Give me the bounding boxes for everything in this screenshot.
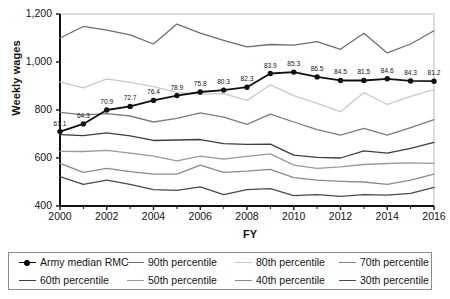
svg-text:86.5: 86.5 [311,65,324,72]
legend-row-2: 60th percentile50th percentile40th perce… [9,271,431,290]
svg-text:70.9: 70.9 [100,98,113,105]
legend-swatch-icon [19,280,36,281]
legend-item-label: Army median RMC [40,257,129,268]
svg-text:83.9: 83.9 [264,62,277,69]
legend-swatch-icon [339,262,356,263]
legend-item-70th-percentile[interactable]: 70th percentile [339,257,429,268]
chart-legend: Army median RMC90th percentile80th perce… [8,252,432,290]
svg-text:84.5: 84.5 [334,68,347,75]
legend-item-60th-percentile[interactable]: 60th percentile [19,275,109,286]
legend-item-label: 30th percentile [360,275,429,286]
legend-item-label: 50th percentile [148,275,217,286]
x-axis-title: FY [60,228,440,240]
x-axis-tick-label: 2008 [227,210,267,222]
x-axis-tick-label: 2012 [321,210,361,222]
svg-text:78.9: 78.9 [170,84,183,91]
svg-text:72.7: 72.7 [124,94,137,101]
svg-text:81.5: 81.5 [357,68,370,75]
legend-item-label: 80th percentile [256,257,325,268]
svg-text:61.1: 61.1 [54,120,67,127]
svg-text:82.3: 82.3 [241,75,254,82]
legend-swatch-icon [127,280,144,281]
svg-text:76.4: 76.4 [147,88,160,95]
legend-item-90th-percentile[interactable]: 90th percentile [127,257,217,268]
svg-text:75.8: 75.8 [194,80,207,87]
legend-item-30th-percentile[interactable]: 30th percentile [339,275,429,286]
x-axis-tick-label: 2010 [274,210,314,222]
y-axis-tick-label: 1,000 [8,55,52,67]
y-axis-tick-label: 800 [8,103,52,115]
svg-text:85.3: 85.3 [287,60,300,67]
y-axis-tick-label: 600 [8,151,52,163]
legend-item-label: 60th percentile [40,275,109,286]
legend-swatch-icon [127,262,144,263]
legend-item-label: 40th percentile [256,275,325,286]
x-axis-tick-label: 2014 [367,210,407,222]
svg-text:80.3: 80.3 [217,78,230,85]
x-axis-tick-label: 2002 [87,210,127,222]
svg-text:64.3: 64.3 [77,112,90,119]
legend-item-label: 70th percentile [360,257,429,268]
svg-text:84.6: 84.6 [381,67,394,74]
legend-item-army-median-rmc[interactable]: Army median RMC [19,257,129,268]
svg-text:81.2: 81.2 [428,69,441,76]
y-axis-tick-label: 1,200 [8,7,52,19]
legend-swatch-icon [339,280,356,281]
legend-swatch-icon [235,262,252,263]
legend-item-80th-percentile[interactable]: 80th percentile [235,257,325,268]
legend-item-50th-percentile[interactable]: 50th percentile [127,275,217,286]
x-axis-tick-label: 2016 [414,210,450,222]
svg-text:84.3: 84.3 [404,69,417,76]
legend-item-label: 90th percentile [148,257,217,268]
x-axis-tick-label: 2004 [134,210,174,222]
legend-item-40th-percentile[interactable]: 40th percentile [235,275,325,286]
legend-swatch-icon [235,280,252,281]
legend-row-1: Army median RMC90th percentile80th perce… [9,253,431,272]
x-axis-tick-label: 2000 [40,210,80,222]
legend-swatch-icon [19,262,36,263]
x-axis-tick-label: 2006 [180,210,220,222]
